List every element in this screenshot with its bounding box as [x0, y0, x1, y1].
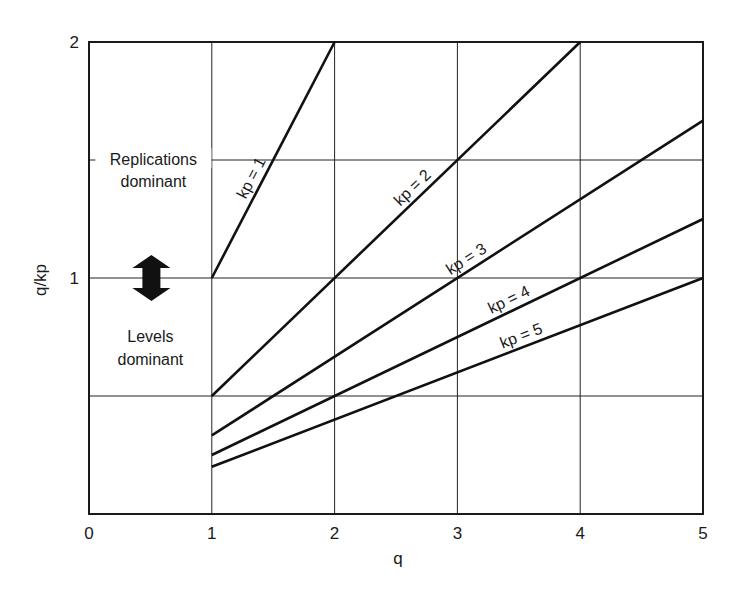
- x-axis-ticks: 012345: [84, 524, 707, 543]
- replications-label-line1: Replications: [110, 151, 197, 168]
- y-tick-label: 1: [70, 269, 79, 288]
- x-tick-label: 0: [84, 524, 93, 543]
- x-tick-label: 5: [698, 524, 707, 543]
- x-axis-label: q: [393, 549, 402, 568]
- replications-label-line2: dominant: [120, 173, 186, 190]
- x-tick-label: 1: [207, 524, 216, 543]
- y-axis-ticks: 12: [70, 33, 79, 288]
- y-tick-label: 2: [70, 33, 79, 52]
- x-tick-label: 3: [453, 524, 462, 543]
- y-axis-label: q/kp: [31, 264, 50, 296]
- levels-dominant-label: Levels dominant: [117, 328, 183, 368]
- replications-dominant-label: Replications dominant: [95, 148, 211, 190]
- grid-lines: [89, 42, 703, 514]
- x-tick-label: 4: [575, 524, 584, 543]
- chart: 012345 12 q q/kp Replications dominant L…: [0, 0, 738, 597]
- levels-label-line1: Levels: [127, 328, 173, 345]
- levels-label-line2: dominant: [117, 351, 183, 368]
- x-tick-label: 2: [330, 524, 339, 543]
